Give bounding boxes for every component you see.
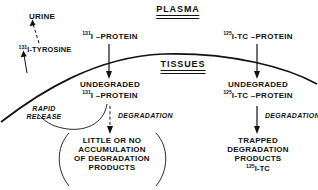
node-undegraded-left-line2: 131I –PROTEIN [80,90,140,101]
node-undegraded-right-text: I-TC –PROTEIN [232,91,293,100]
node-i131-tyrosine-superscript: 131 [19,44,28,50]
node-i131-tyrosine-label: I-TYROSINE [27,45,71,54]
arrow-release-to-tyrosine [24,55,27,73]
arrowhead-i125tc-uptake [254,71,260,79]
node-undegraded-i131-protein: UNDEGRADED 131I –PROTEIN [80,81,140,101]
section-header-plasma: PLASMA [156,4,199,19]
section-header-plasma-label: PLASMA [156,4,199,14]
arrowhead-degradation-left [107,126,113,134]
node-i125tc-protein-plasma-label: I-TC –PROTEIN [232,32,293,41]
arrowhead-i131-uptake [106,71,112,79]
annotation-degradation-right: DEGRADATION [265,112,318,120]
annotation-degradation-left: DEGRADATION [118,112,173,120]
node-undegraded-right-superscript: 125 [223,89,232,95]
node-trapped-line4: 125I-TC [227,164,289,174]
bracket-left-arc [59,133,69,186]
node-undegraded-left-superscript: 131 [82,89,91,95]
plasma-underline [156,15,199,18]
node-i125tc-protein-plasma-superscript: 125 [223,30,232,36]
node-i131-protein-plasma: 131I –PROTEIN [82,31,138,42]
node-undegraded-left-text: I –PROTEIN [91,91,138,100]
section-header-tissues: TISSUES [161,59,206,74]
annotation-rapid-release-line2: RELEASE [26,113,61,121]
radiolabel-metabolism-diagram: PLASMA TISSUES URINE 131I-TYROSINE 131I … [0,0,318,190]
arrowhead-degradation-right [254,126,260,134]
annotation-rapid-release: RAPID RELEASE [26,105,61,121]
tissues-underline [161,70,206,73]
node-trapped-superscript: 125 [246,163,255,169]
node-little-line4: PRODUCTS [74,164,150,173]
bracket-right-arc [156,133,166,186]
arrow-tyrosine-to-urine [33,24,39,43]
node-i125tc-protein-plasma: 125I-TC –PROTEIN [223,31,293,42]
node-urine-label: URINE [29,12,55,21]
node-i131-protein-plasma-superscript: 131 [82,30,91,36]
node-i131-tyrosine: 131I-TYROSINE [19,45,72,55]
node-trapped-line3: PRODUCTS [227,155,289,164]
annotation-rapid-release-line1: RAPID [26,105,61,113]
node-undegraded-right-line2: 125I-TC –PROTEIN [223,90,293,101]
node-urine: URINE [29,13,55,22]
node-i131-protein-plasma-label: I –PROTEIN [91,32,138,41]
node-trapped-degradation-products: TRAPPED DEGRADATION PRODUCTS 125I-TC [227,137,289,174]
section-header-tissues-label: TISSUES [161,59,206,69]
node-undegraded-i125tc-protein: UNDEGRADED 125I-TC –PROTEIN [223,81,293,101]
annotation-degradation-left-label: DEGRADATION [118,112,173,119]
annotation-degradation-right-label: DEGRADATION [265,112,318,119]
node-little-or-no-accumulation: LITTLE OR NO ACCUMULATION OF DEGRADATION… [74,137,150,173]
node-trapped-text: I-TC [255,164,270,173]
node-undegraded-right-line1: UNDEGRADED [223,81,293,90]
